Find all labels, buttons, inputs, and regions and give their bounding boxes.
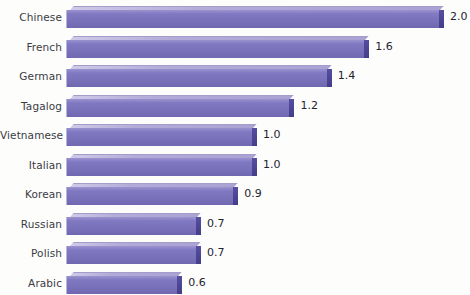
bar-vietnamese: [66, 124, 253, 146]
bar-top-face: [70, 36, 369, 40]
value-label-chinese: 2.0: [450, 6, 468, 28]
bar-italian: [66, 154, 253, 176]
bar-top-face: [70, 65, 331, 69]
bar-row: Russian0.7: [0, 213, 470, 243]
bar-right-face: [252, 128, 257, 146]
bar-russian: [66, 213, 197, 235]
bar-top-face: [70, 183, 238, 187]
bar-front-face: [66, 40, 365, 58]
bar-front-face: [66, 128, 253, 146]
value-label-italian: 1.0: [263, 154, 281, 176]
bar-front-face: [66, 187, 234, 205]
bar-german: [66, 65, 328, 87]
bar-row: Arabic0.6: [0, 272, 470, 295]
bar-top-face: [70, 6, 444, 10]
bar-row: French1.6: [0, 36, 470, 66]
bar-top-face: [70, 154, 257, 158]
value-label-arabic: 0.6: [188, 272, 206, 294]
bar-chinese: [66, 6, 440, 28]
bar-chart: Chinese2.0French1.6German1.4Tagalog1.2Vi…: [0, 0, 470, 295]
value-label-french: 1.6: [375, 36, 393, 58]
bar-right-face: [439, 10, 444, 28]
bar-front-face: [66, 246, 197, 264]
bar-tagalog: [66, 95, 290, 117]
bar-right-face: [289, 99, 294, 117]
bar-top-face: [70, 213, 200, 217]
bar-top-face: [70, 124, 257, 128]
bar-row: German1.4: [0, 65, 470, 95]
bar-arabic: [66, 272, 178, 294]
bar-front-face: [66, 158, 253, 176]
bar-front-face: [66, 217, 197, 235]
bar-front-face: [66, 69, 328, 87]
category-label-arabic: Arabic: [0, 272, 62, 294]
bar-row: Korean0.9: [0, 183, 470, 213]
bar-top-face: [70, 242, 200, 246]
bar-right-face: [252, 158, 257, 176]
category-label-chinese: Chinese: [0, 6, 62, 28]
bar-row: Polish0.7: [0, 242, 470, 272]
bar-right-face: [177, 276, 182, 294]
bar-right-face: [233, 187, 238, 205]
bar-front-face: [66, 10, 440, 28]
value-label-korean: 0.9: [244, 183, 262, 205]
bar-korean: [66, 183, 234, 205]
bar-row: Vietnamese1.0: [0, 124, 470, 154]
category-label-italian: Italian: [0, 154, 62, 176]
bar-right-face: [327, 69, 332, 87]
bar-front-face: [66, 99, 290, 117]
bar-polish: [66, 242, 197, 264]
bar-front-face: [66, 276, 178, 294]
bar-top-face: [70, 95, 294, 99]
bar-right-face: [364, 40, 369, 58]
bar-row: Chinese2.0: [0, 6, 470, 36]
bar-french: [66, 36, 365, 58]
category-label-polish: Polish: [0, 242, 62, 264]
bar-row: Italian1.0: [0, 154, 470, 184]
category-label-vietnamese: Vietnamese: [0, 124, 62, 146]
bar-right-face: [196, 246, 201, 264]
value-label-german: 1.4: [338, 65, 356, 87]
value-label-tagalog: 1.2: [300, 95, 318, 117]
category-label-russian: Russian: [0, 213, 62, 235]
bar-row: Tagalog1.2: [0, 95, 470, 125]
category-label-tagalog: Tagalog: [0, 95, 62, 117]
value-label-vietnamese: 1.0: [263, 124, 281, 146]
chart-title-remnant: [30, 0, 210, 3]
category-label-german: German: [0, 65, 62, 87]
category-label-french: French: [0, 36, 62, 58]
bar-right-face: [196, 217, 201, 235]
value-label-russian: 0.7: [207, 213, 225, 235]
bar-top-face: [70, 272, 182, 276]
category-label-korean: Korean: [0, 183, 62, 205]
value-label-polish: 0.7: [207, 242, 225, 264]
